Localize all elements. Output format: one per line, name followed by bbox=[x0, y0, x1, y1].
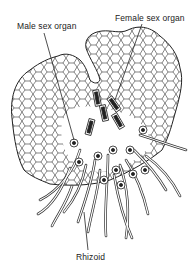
male-sex-organ-label: Male sex organ bbox=[17, 22, 77, 31]
female-sex-organ-label: Female sex organ bbox=[115, 14, 185, 23]
rhizoid-label: Rhizoid bbox=[76, 253, 105, 262]
prothallus-illustration bbox=[0, 0, 196, 267]
prothallus-diagram: Male sex organ Female sex organ Rhizoid bbox=[0, 0, 196, 267]
